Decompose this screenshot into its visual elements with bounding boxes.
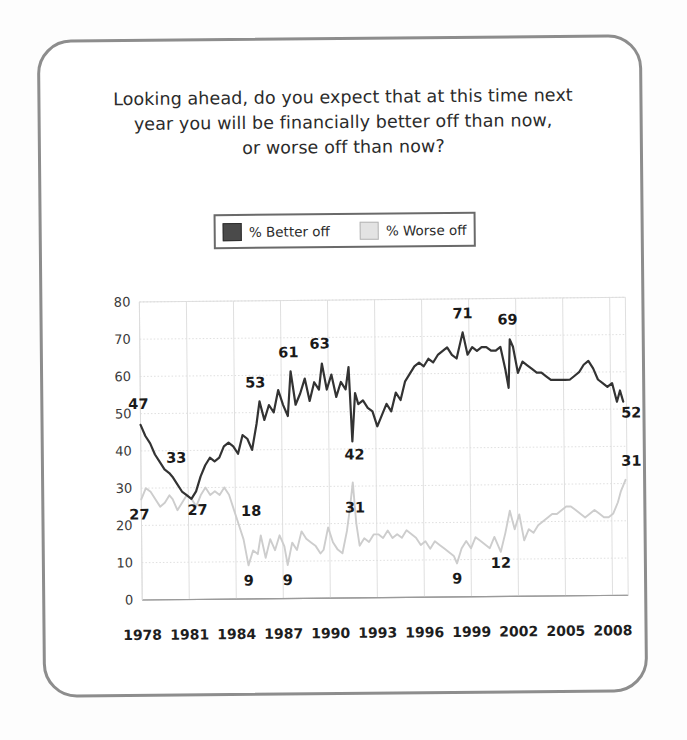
data-label: 27: [129, 506, 149, 522]
data-label: 71: [452, 305, 472, 321]
chart-gridlines: [139, 297, 628, 600]
data-label: 47: [128, 396, 148, 412]
chart-title: Looking ahead, do you expect that at thi…: [70, 82, 616, 162]
legend-label-better-off: % Better off: [249, 223, 330, 240]
legend-entry-better-off: % Better off: [223, 222, 330, 241]
page-background: Looking ahead, do you expect that at thi…: [0, 0, 687, 740]
chart-title-line-2: year you will be financially better off …: [71, 107, 616, 137]
y-tick-label: 30: [116, 481, 133, 496]
x-tick-label: 1981: [170, 626, 209, 642]
x-tick-label: 1999: [452, 624, 491, 640]
data-label: 53: [245, 374, 265, 390]
y-tick-label: 70: [114, 332, 131, 347]
legend-label-worse-off: % Worse off: [386, 221, 467, 238]
data-label: 42: [344, 446, 364, 462]
series-line-better-off: [140, 331, 624, 500]
data-label: 12: [491, 555, 511, 571]
x-tick-label: 2002: [499, 623, 538, 639]
line-chart-svg: 01020304050607080 4733275361634271695227…: [54, 285, 643, 671]
x-tick-label: 1990: [311, 625, 350, 641]
plot-area: 01020304050607080 4733275361634271695227…: [54, 285, 643, 671]
y-tick-label: 60: [114, 369, 131, 384]
x-tick-label: 2005: [546, 623, 585, 639]
data-label: 31: [621, 453, 641, 469]
data-label: 9: [452, 570, 462, 586]
chart-card-inner: Looking ahead, do you expect that at thi…: [40, 37, 645, 695]
x-tick-label: 1978: [123, 627, 162, 643]
data-label: 52: [621, 404, 641, 420]
data-label: 63: [309, 335, 329, 351]
x-tick-label: 1993: [358, 624, 397, 640]
y-tick-label: 0: [125, 593, 133, 608]
data-label: 31: [345, 499, 365, 515]
x-tick-label: 1984: [217, 626, 256, 642]
x-axis-ticks: 1978198119841987199019931996199920022005…: [123, 622, 632, 643]
data-label: 61: [278, 344, 298, 360]
data-label: 69: [497, 311, 517, 327]
y-axis-ticks: 01020304050607080: [114, 295, 134, 608]
x-tick-label: 2008: [593, 622, 632, 638]
y-tick-label: 80: [114, 295, 131, 310]
x-tick-label: 1996: [405, 624, 444, 640]
y-tick-label: 40: [115, 444, 132, 459]
x-tick-label: 1987: [264, 625, 303, 641]
data-label: 9: [244, 572, 254, 588]
chart-title-line-3: or worse off than now?: [71, 132, 616, 162]
data-label: 9: [283, 572, 293, 588]
chart-legend: % Better off % Worse off: [214, 212, 476, 250]
chart-card: Looking ahead, do you expect that at thi…: [37, 34, 648, 698]
data-label: 33: [166, 450, 186, 466]
y-tick-label: 10: [116, 555, 133, 570]
legend-entry-worse-off: % Worse off: [360, 220, 467, 239]
legend-swatch-better-off-icon: [223, 222, 242, 240]
data-label: 27: [187, 502, 207, 518]
legend-swatch-worse-off-icon: [360, 221, 379, 239]
data-label: 18: [241, 503, 261, 519]
